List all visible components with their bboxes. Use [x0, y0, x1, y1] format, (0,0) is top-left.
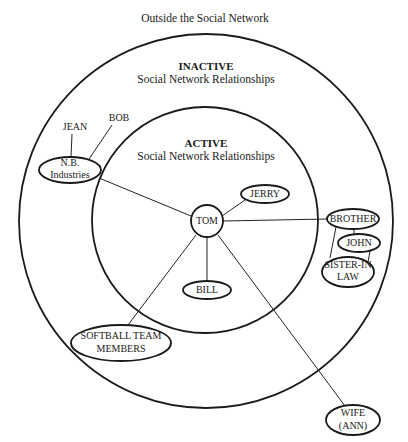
node-wife-ann: WIFE (ANN): [326, 405, 380, 435]
inactive-zone-title: INACTIVE: [178, 60, 233, 72]
node-label: JERRY: [250, 188, 280, 199]
bob-label: BOB: [109, 112, 130, 123]
node-label: (ANN): [339, 420, 367, 432]
active-zone-subtitle: Social Network Relationships: [137, 150, 275, 163]
node-sister-in-law: SISTER-IN LAW: [322, 257, 374, 287]
node-label: N.B.: [61, 157, 80, 168]
node-label: SISTER-IN: [324, 259, 371, 270]
node-label: WIFE: [341, 407, 365, 418]
node-label: LAW: [337, 271, 360, 282]
edge-tom-softball: [128, 235, 196, 325]
edge-tom-jerry: [222, 200, 245, 216]
edge-nb-industries-jean: [71, 134, 72, 157]
inactive-zone-subtitle: Social Network Relationships: [137, 73, 275, 86]
social-network-diagram: Outside the Social Network INACTIVE Soci…: [0, 0, 408, 442]
active-zone-title: ACTIVE: [185, 137, 228, 149]
node-label: MEMBERS: [97, 343, 146, 354]
node-softball-team-members: SOFTBALL TEAM MEMBERS: [71, 325, 171, 361]
jean-label: JEAN: [63, 121, 87, 132]
node-label: Industries: [50, 169, 90, 180]
node-nb-industries: N.B. Industries: [39, 157, 101, 183]
node-label: JOHN: [346, 237, 372, 248]
node-john: JOHN: [338, 234, 380, 252]
node-label: SOFTBALL TEAM: [81, 330, 162, 341]
node-brother: BROTHER: [327, 209, 379, 229]
node-label: BROTHER: [330, 213, 377, 224]
edge-brother-sister-in-law: [330, 227, 336, 258]
node-label: BILL: [196, 284, 218, 295]
node-jerry: JERRY: [241, 185, 289, 203]
outside-network-label: Outside the Social Network: [141, 12, 269, 24]
node-tom: TOM: [191, 205, 223, 237]
edge-nb-industries-bob: [89, 125, 112, 159]
edge-tom-brother: [223, 219, 328, 221]
node-label: TOM: [196, 215, 218, 226]
node-bill: BILL: [183, 281, 231, 299]
edge-tom-nb-industries: [99, 178, 191, 216]
